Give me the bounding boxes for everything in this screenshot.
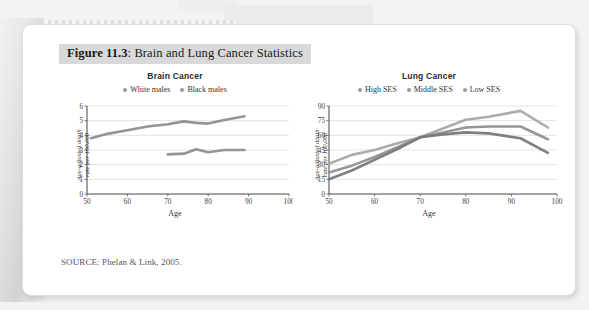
svg-text:100: 100 <box>552 198 563 206</box>
svg-text:90: 90 <box>318 103 326 111</box>
legend-label: Black males <box>187 85 226 94</box>
svg-text:6: 6 <box>79 103 83 111</box>
svg-text:90: 90 <box>508 198 516 206</box>
x-axis-label-lung-cancer: Age <box>295 209 563 218</box>
svg-text:80: 80 <box>462 198 470 206</box>
legend-item-high-ses: High SES <box>358 85 397 94</box>
svg-text:100: 100 <box>284 198 293 206</box>
figure-source: SOURCE: Phelan & Link, 2005. <box>61 257 182 267</box>
chart-legend-brain-cancer: White males Black males <box>57 85 293 94</box>
y-axis-label-line2: rate per 100,000 <box>83 133 90 177</box>
legend-dot-icon <box>463 88 467 92</box>
chart-panel-lung-cancer: Lung Cancer High SES Middle SES Low SES … <box>295 71 563 218</box>
legend-label: White males <box>130 85 170 94</box>
svg-text:80: 80 <box>205 198 213 206</box>
svg-text:50: 50 <box>83 198 91 206</box>
figure-screenshot: Figure 11.3: Brain and Lung Cancer Stati… <box>0 0 589 310</box>
legend-dot-icon <box>407 88 411 92</box>
y-axis-label-line2: rate per 100,000 <box>321 133 328 177</box>
y-axis-label-lung-cancer: Age-adjusted death rate per 100,000 <box>313 129 328 180</box>
chart-panel-brain-cancer: Brain Cancer White males Black males Age… <box>57 71 293 218</box>
chart-legend-lung-cancer: High SES Middle SES Low SES <box>295 85 563 94</box>
plot-area-lung-cancer: Age-adjusted death rate per 100,000 0153… <box>295 100 563 210</box>
legend-dot-icon <box>180 88 184 92</box>
legend-label: Low SES <box>470 85 500 94</box>
chart-title-lung-cancer: Lung Cancer <box>295 71 563 81</box>
y-axis-label-line1: Age-adjusted death <box>313 129 320 180</box>
legend-dot-icon <box>123 88 127 92</box>
figure-sheet: Figure 11.3: Brain and Lung Cancer Stati… <box>22 24 576 296</box>
svg-text:75: 75 <box>318 117 326 125</box>
figure-caption-number: Figure 11.3 <box>67 46 128 60</box>
legend-item-black-males: Black males <box>180 85 226 94</box>
svg-text:90: 90 <box>245 198 253 206</box>
svg-text:5: 5 <box>79 117 83 125</box>
legend-item-white-males: White males <box>123 85 170 94</box>
legend-label: High SES <box>365 85 397 94</box>
plot-area-brain-cancer: Age-adjusted death rate per 100,000 0123… <box>57 100 293 210</box>
y-axis-label-line1: Age-adjusted death <box>75 129 82 180</box>
svg-text:50: 50 <box>325 198 333 206</box>
figure-caption-text: Brain and Lung Cancer Statistics <box>134 46 302 60</box>
chart-svg-lung-cancer: 01530456075905060708090100 <box>295 100 563 210</box>
legend-dot-icon <box>358 88 362 92</box>
x-axis-label-brain-cancer: Age <box>57 209 293 218</box>
legend-label: Middle SES <box>414 85 453 94</box>
svg-text:70: 70 <box>417 198 425 206</box>
chart-svg-brain-cancer: 01234565060708090100 <box>57 100 293 210</box>
svg-text:70: 70 <box>164 198 172 206</box>
svg-text:60: 60 <box>371 198 379 206</box>
figure-caption: Figure 11.3: Brain and Lung Cancer Stati… <box>59 44 311 64</box>
legend-item-low-ses: Low SES <box>463 85 500 94</box>
svg-text:60: 60 <box>124 198 132 206</box>
chart-title-brain-cancer: Brain Cancer <box>57 71 293 81</box>
y-axis-label-brain-cancer: Age-adjusted death rate per 100,000 <box>75 129 90 180</box>
legend-item-middle-ses: Middle SES <box>407 85 453 94</box>
